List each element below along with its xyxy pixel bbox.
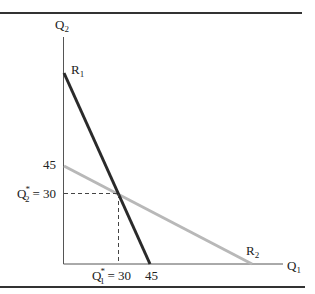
x-tick-45: 45 (145, 268, 158, 283)
r2-curve (64, 166, 252, 264)
r1-label: R1 (71, 62, 84, 79)
r2-label: R2 (246, 243, 259, 260)
x-axis-label: Q1 (287, 258, 301, 275)
q1-star-label: Q*1= 30 (92, 266, 131, 286)
r1-curve (64, 73, 150, 264)
y-axis-label: Q2 (55, 17, 69, 34)
y-tick-45: 45 (43, 157, 56, 172)
q2-star-label: Q*2= 30 (17, 184, 56, 204)
reaction-curve-diagram: Q2 Q1 R1 R2 45 45 Q*2= 30 Q*1= 30 (0, 0, 315, 294)
